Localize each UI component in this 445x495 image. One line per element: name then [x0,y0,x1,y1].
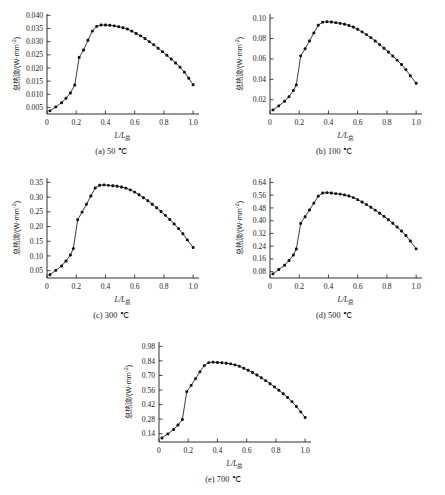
data-point [133,191,136,194]
data-point [369,206,372,209]
x-tick-label: 0.2 [71,118,81,127]
data-point [378,212,381,215]
y-tick-label: 0.10 [253,14,266,23]
data-point [229,362,232,365]
data-point [273,385,276,388]
data-point [60,264,63,267]
y-tick-label: 0.05 [30,266,43,275]
data-point [151,203,154,206]
data-point [295,83,298,86]
x-tick-label: 1.0 [188,282,198,291]
y-tick-label: 0.48 [253,204,266,213]
data-point [264,379,267,382]
data-point [304,215,307,218]
data-point [317,24,320,27]
data-point [48,109,51,112]
data-point [95,25,98,28]
data-point [343,193,346,196]
data-point [260,376,263,379]
x-axis-label: L/L总 [114,295,132,305]
data-point [69,92,72,95]
data-point [207,361,210,364]
data-point [396,59,399,62]
data-point [142,196,145,199]
data-point [160,210,163,213]
data-point [60,101,63,104]
data-point [242,367,245,370]
data-point [365,203,368,206]
data-point [174,62,177,65]
data-point [203,364,206,367]
axis-lines [270,178,422,278]
data-point [400,63,403,66]
data-point [369,36,372,39]
data-point [299,410,302,413]
data-point [161,50,164,53]
x-tick-label: 0 [45,118,49,127]
data-point [308,209,311,212]
data-point [238,365,241,368]
data-curve [273,22,416,110]
x-tick-label: 0.2 [183,446,193,455]
data-point [129,188,132,191]
x-tick-label: 0.2 [294,282,304,291]
subplot-caption-a: (a) 50 ℃ [0,146,222,156]
data-point [86,39,89,42]
data-point [181,232,184,235]
data-point [138,193,141,196]
y-tick-label: 0.08 [253,267,266,276]
y-tick-label: 0.015 [26,77,43,86]
data-point [155,206,158,209]
y-tick-label: 0.70 [142,371,155,380]
data-point [356,28,359,31]
data-point [225,362,228,365]
data-point [326,20,329,23]
data-curve [50,25,193,111]
data-point [299,54,302,57]
data-point [172,428,175,431]
y-tick-label: 0.56 [253,191,266,200]
data-point [365,33,368,36]
plot-area-b: 0.020.040.060.080.1000.20.40.60.81.0总热流/… [223,4,445,162]
data-point [113,24,116,27]
data-point [339,193,342,196]
data-point [321,21,324,24]
y-tick-label: 0.42 [142,400,155,409]
y-tick-label: 0.98 [142,342,155,351]
data-point [292,89,295,92]
y-axis-label: 总热流/(W·mm-2) [11,201,21,255]
data-curve [162,362,305,438]
y-axis-label: 总热流/(W·mm-2) [234,37,244,91]
y-tick-label: 0.04 [253,75,266,84]
data-point [282,392,285,395]
data-point [288,95,291,98]
x-tick-label: 0.4 [213,446,223,455]
data-point [164,214,167,217]
data-point [143,37,146,40]
y-tick-label: 0.010 [26,90,43,99]
data-point [409,74,412,77]
data-point [89,194,92,197]
data-point [304,47,307,50]
data-point [387,218,390,221]
data-point [343,23,346,26]
data-point [194,377,197,380]
data-point [383,215,386,218]
subplot-c: 0.050.100.150.200.250.300.3500.20.40.60.… [0,168,222,326]
y-tick-label: 0.10 [30,252,43,261]
data-point [85,203,88,206]
y-tick-label: 0.32 [253,229,266,238]
x-axis-label: L/L总 [114,131,132,141]
data-point [116,185,119,188]
y-tick-label: 0.35 [30,178,43,187]
data-point [374,209,377,212]
data-point [122,26,125,29]
subplot-caption-d: (d) 500 ℃ [223,310,445,320]
x-tick-label: 0.6 [242,446,252,455]
data-point [117,25,120,28]
data-point [111,184,114,187]
data-point [334,192,337,195]
data-point [404,68,407,71]
data-point [415,82,418,85]
data-point [108,24,111,27]
